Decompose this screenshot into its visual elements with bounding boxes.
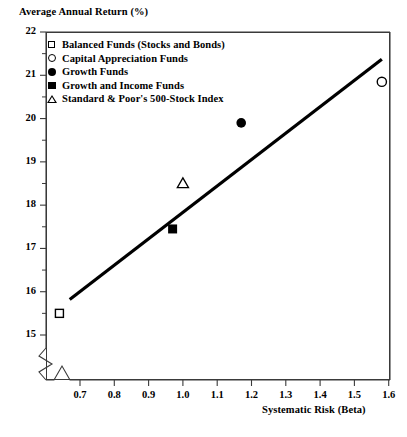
y-tick-label: 15 bbox=[10, 328, 36, 339]
y-tick-label: 18 bbox=[10, 198, 36, 209]
filled-square-icon bbox=[45, 79, 62, 92]
open-square-icon bbox=[45, 38, 62, 51]
legend-item: Growth and Income Funds bbox=[45, 79, 255, 93]
x-tick-label: 1.4 bbox=[303, 389, 337, 400]
y-tick-label: 22 bbox=[10, 25, 36, 36]
legend-item-label: Balanced Funds (Stocks and Bonds) bbox=[62, 39, 225, 50]
legend-item: Standard & Poor's 500-Stock Index bbox=[45, 92, 255, 106]
legend-item-label: Capital Appreciation Funds bbox=[62, 53, 188, 64]
y-tick-label: 16 bbox=[10, 285, 36, 296]
x-tick-label: 0.7 bbox=[63, 389, 97, 400]
open-triangle-icon bbox=[45, 92, 62, 105]
legend-item: Growth Funds bbox=[45, 65, 255, 79]
legend-item-label: Standard & Poor's 500-Stock Index bbox=[62, 93, 224, 104]
x-tick-label: 0.9 bbox=[132, 389, 166, 400]
y-tick-label: 21 bbox=[10, 68, 36, 79]
x-tick-label: 1.2 bbox=[235, 389, 269, 400]
x-tick-label: 1.3 bbox=[269, 389, 303, 400]
x-tick-label: 1.1 bbox=[200, 389, 234, 400]
scatter-chart: Average Annual Return (%) 22212019181716… bbox=[0, 0, 407, 437]
open-square-glyph bbox=[48, 41, 55, 48]
x-tick-label: 1.0 bbox=[166, 389, 200, 400]
open-circle-icon bbox=[45, 52, 62, 65]
legend-item: Balanced Funds (Stocks and Bonds) bbox=[45, 38, 255, 52]
filled-circle-icon bbox=[45, 65, 62, 78]
y-tick-label: 19 bbox=[10, 155, 36, 166]
x-tick-label: 0.8 bbox=[97, 389, 131, 400]
x-tick-label: 1.5 bbox=[337, 389, 371, 400]
open-triangle-glyph bbox=[47, 95, 57, 103]
y-axis-title: Average Annual Return (%) bbox=[19, 6, 148, 17]
x-tick-label: 1.6 bbox=[372, 389, 406, 400]
legend-item-label: Growth and Income Funds bbox=[62, 80, 184, 91]
y-tick-label: 20 bbox=[10, 112, 36, 123]
legend-item-label: Growth Funds bbox=[62, 66, 128, 77]
open-circle-glyph bbox=[48, 54, 56, 62]
filled-square-glyph bbox=[48, 82, 56, 90]
filled-circle-glyph bbox=[48, 68, 56, 76]
chart-legend: Balanced Funds (Stocks and Bonds)Capital… bbox=[45, 38, 255, 106]
legend-item: Capital Appreciation Funds bbox=[45, 52, 255, 66]
x-axis-title: Systematic Risk (Beta) bbox=[262, 404, 366, 415]
y-tick-label: 17 bbox=[10, 241, 36, 252]
